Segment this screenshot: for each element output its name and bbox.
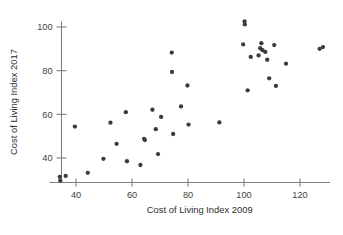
y-tick-label: 80: [42, 66, 52, 76]
x-axis-title: Cost of Living Index 2009: [147, 204, 253, 215]
data-point: [274, 84, 278, 88]
data-point: [108, 120, 112, 124]
data-points-group: [58, 19, 326, 183]
y-axis-title: Cost of Living Index 2017: [8, 49, 19, 155]
data-point: [265, 58, 269, 62]
data-point: [58, 179, 62, 183]
x-tick-label: 120: [292, 190, 307, 200]
data-point: [171, 132, 175, 136]
data-point: [125, 159, 129, 163]
x-axis-ticks: 406080100120: [71, 179, 308, 200]
data-point: [114, 142, 118, 146]
x-tick-label: 60: [127, 190, 137, 200]
data-point: [156, 152, 160, 156]
data-point: [284, 62, 288, 66]
data-point: [143, 138, 147, 142]
scatter-plot-figure: 406080100120 406080100 Cost of Living In…: [0, 0, 343, 235]
data-point: [170, 50, 174, 54]
data-point: [124, 110, 128, 114]
data-point: [217, 120, 221, 124]
x-tick-label: 100: [236, 190, 251, 200]
y-tick-label: 60: [42, 110, 52, 120]
data-point: [154, 127, 158, 131]
data-point: [101, 157, 105, 161]
data-point: [263, 50, 267, 54]
data-point: [150, 108, 154, 112]
x-tick-label: 40: [71, 190, 81, 200]
data-point: [170, 70, 174, 74]
data-point: [63, 174, 67, 178]
y-axis-ticks: 406080100: [37, 22, 66, 163]
data-point: [321, 45, 325, 49]
y-tick-label: 100: [37, 22, 52, 32]
x-tick-label: 80: [183, 190, 193, 200]
data-point: [241, 42, 245, 46]
data-point: [138, 163, 142, 167]
data-point: [86, 171, 90, 175]
data-point: [58, 175, 62, 179]
data-point: [159, 115, 163, 119]
data-point: [243, 22, 247, 26]
data-point: [256, 53, 260, 57]
data-point: [245, 88, 249, 92]
data-point: [186, 122, 190, 126]
data-point: [73, 124, 77, 128]
data-point: [179, 104, 183, 108]
axis-group: [50, 22, 331, 183]
plot-canvas: 406080100120 406080100 Cost of Living In…: [0, 0, 343, 235]
data-point: [249, 55, 253, 59]
data-point: [267, 76, 271, 80]
data-point: [272, 43, 276, 47]
data-point: [259, 41, 263, 45]
data-point: [185, 83, 189, 87]
y-tick-label: 40: [42, 153, 52, 163]
